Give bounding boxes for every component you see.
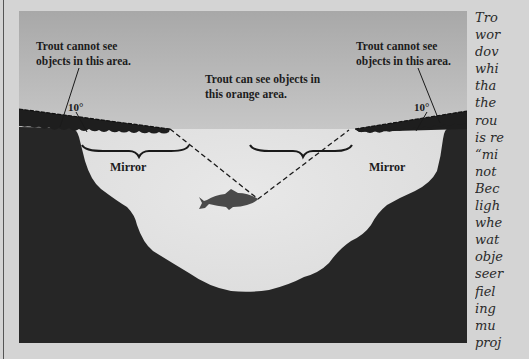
visible-zone-line-1: Trout can see objects in (205, 72, 320, 87)
side-text-line: wat (475, 231, 529, 248)
side-text-line: Bec (475, 180, 529, 197)
side-text-line: mu (475, 317, 529, 334)
left-blind-zone-line-2: objects in this area. (36, 54, 131, 69)
side-body-text: Tro wor dov whi tha the rou is re “mi no… (475, 9, 529, 351)
visible-zone-line-2: this orange area. (205, 87, 320, 102)
side-text-line: “mi (475, 146, 529, 163)
side-text-line: is re (475, 129, 529, 146)
side-text-line: whi (475, 60, 529, 77)
right-blind-zone-label: Trout cannot see objects in this area. (356, 39, 451, 69)
left-blind-zone-label: Trout cannot see objects in this area. (36, 39, 131, 69)
side-text-line: whe (475, 214, 529, 231)
right-mirror-label: Mirror (369, 160, 405, 175)
right-angle-label: 10° (414, 100, 429, 115)
side-text-line: ligh (475, 197, 529, 214)
right-blind-zone-line-2: objects in this area. (356, 54, 451, 69)
side-text-line: Tro (475, 9, 529, 26)
left-blind-zone-line-1: Trout cannot see (36, 39, 131, 54)
side-text-line: rou (475, 112, 529, 129)
side-text-line: proj (475, 334, 529, 351)
side-text-line: obje (475, 248, 529, 265)
side-text-line: fiel (475, 283, 529, 300)
side-text-line: ing (475, 300, 529, 317)
side-text-line: dov (475, 43, 529, 60)
side-text-line: wor (475, 26, 529, 43)
left-angle-label: 10° (68, 100, 83, 115)
trout-vision-diagram: Trout cannot see objects in this area. T… (19, 11, 467, 343)
side-text-line: tha (475, 77, 529, 94)
left-mirror-label: Mirror (110, 160, 146, 175)
page-edge-line (3, 0, 4, 359)
side-text-line: seer (475, 265, 529, 282)
visible-zone-label: Trout can see objects in this orange are… (205, 72, 320, 102)
side-text-line: not (475, 163, 529, 180)
right-blind-zone-line-1: Trout cannot see (356, 39, 451, 54)
side-text-line: the (475, 94, 529, 111)
